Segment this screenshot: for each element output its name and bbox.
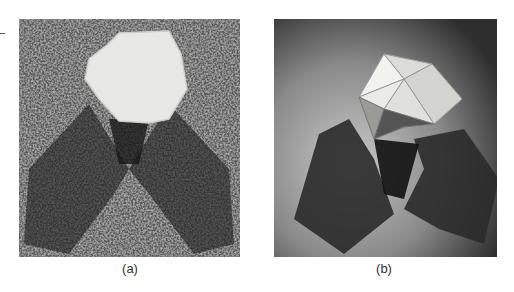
panel-a-micrograph	[19, 19, 240, 257]
model-photo-image	[274, 19, 497, 257]
panel-a-label: (a)	[110, 261, 150, 276]
margin-tick-mark	[0, 33, 5, 34]
micrograph-image	[19, 19, 240, 257]
panel-b-label: (b)	[364, 261, 404, 276]
panel-b-model-photo	[274, 19, 497, 257]
